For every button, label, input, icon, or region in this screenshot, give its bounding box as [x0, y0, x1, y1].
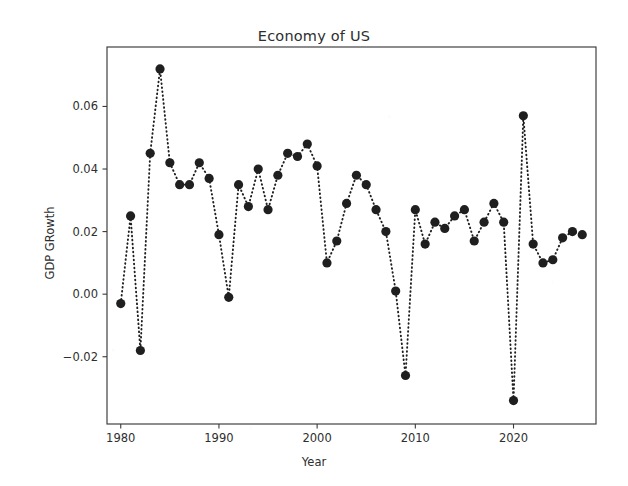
data-point	[450, 211, 459, 220]
data-point	[381, 227, 390, 236]
data-point	[234, 180, 243, 189]
data-point	[430, 218, 439, 227]
x-tick-label: 2000	[302, 431, 331, 445]
data-point	[371, 205, 380, 214]
data-point	[146, 149, 155, 158]
data-point	[401, 371, 410, 380]
y-tick-label: 0.04	[72, 162, 98, 176]
data-point	[489, 199, 498, 208]
x-tick-label: 2020	[499, 431, 528, 445]
data-point	[155, 64, 164, 73]
data-point	[352, 171, 361, 180]
data-point	[205, 174, 214, 183]
data-point-markers	[116, 64, 587, 405]
x-tick-label: 1990	[204, 431, 233, 445]
data-point	[313, 161, 322, 170]
data-point	[479, 218, 488, 227]
data-point	[411, 205, 420, 214]
data-point	[303, 139, 312, 148]
data-point	[529, 240, 538, 249]
data-point	[244, 202, 253, 211]
data-point	[460, 205, 469, 214]
data-line-dotted	[121, 69, 583, 401]
data-point	[126, 211, 135, 220]
plot-area: 19801990200020102020 −0.020.000.020.040.…	[0, 0, 628, 486]
y-tick-label: 0.06	[72, 99, 98, 113]
data-point	[185, 180, 194, 189]
data-point	[558, 233, 567, 242]
data-point	[165, 158, 174, 167]
data-point	[136, 346, 145, 355]
data-point	[568, 227, 577, 236]
data-point	[195, 158, 204, 167]
data-point	[224, 293, 233, 302]
data-point	[342, 199, 351, 208]
data-point	[440, 224, 449, 233]
y-axis-ticks: −0.020.000.020.040.06	[63, 99, 107, 363]
data-point	[548, 255, 557, 264]
data-point	[214, 230, 223, 239]
data-point	[116, 299, 125, 308]
x-tick-label: 2010	[401, 431, 430, 445]
data-point	[391, 286, 400, 295]
axes-frame	[107, 47, 596, 424]
data-point	[578, 230, 587, 239]
data-point	[509, 396, 518, 405]
data-point	[175, 180, 184, 189]
chart-figure: Economy of US GDP GRowth Year 1980199020…	[0, 0, 628, 486]
y-tick-label: −0.02	[63, 350, 98, 364]
data-point	[421, 240, 430, 249]
y-tick-label: 0.02	[72, 225, 98, 239]
x-tick-label: 1980	[106, 431, 135, 445]
data-point	[519, 111, 528, 120]
data-point	[470, 236, 479, 245]
data-point	[283, 149, 292, 158]
data-point	[538, 258, 547, 267]
data-point	[273, 171, 282, 180]
y-tick-label: 0.00	[72, 287, 98, 301]
data-point	[322, 258, 331, 267]
data-point	[293, 152, 302, 161]
data-point	[332, 236, 341, 245]
data-point	[263, 205, 272, 214]
data-point	[254, 164, 263, 173]
data-point	[362, 180, 371, 189]
data-point	[499, 218, 508, 227]
x-axis-ticks: 19801990200020102020	[106, 424, 528, 445]
